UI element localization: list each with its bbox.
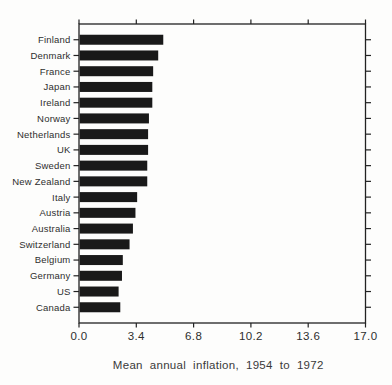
category-label-japan: Japan — [44, 81, 71, 92]
bar-austria — [80, 208, 136, 218]
bar-us — [80, 287, 119, 297]
category-label-ireland: Ireland — [40, 97, 70, 108]
bar-canada — [80, 302, 121, 312]
category-label-austria: Austria — [40, 207, 71, 218]
category-label-canada: Canada — [36, 302, 71, 313]
x-tick-label-0.0: 0.0 — [70, 330, 87, 342]
bar-norway — [80, 113, 149, 123]
bar-germany — [80, 271, 122, 281]
bar-japan — [80, 82, 153, 92]
x-tick-label-3.4: 3.4 — [128, 330, 145, 342]
category-label-france: France — [40, 66, 71, 77]
bar-france — [80, 66, 153, 76]
inflation-bar-chart-figure: 0.03.46.810.213.617.0FinlandDenmarkFranc… — [0, 0, 392, 385]
bar-uk — [80, 145, 148, 155]
bar-new-zealand — [80, 176, 148, 186]
bar-belgium — [80, 255, 123, 265]
category-label-switzerland: Switzerland — [19, 239, 70, 250]
bar-finland — [80, 35, 164, 45]
x-tick-label-17.0: 17.0 — [354, 330, 378, 342]
category-label-italy: Italy — [52, 192, 70, 203]
x-axis-title: Mean annual inflation, 1954 to 1972 — [113, 359, 324, 371]
bar-switzerland — [80, 239, 130, 249]
bar-denmark — [80, 50, 159, 60]
category-label-belgium: Belgium — [35, 254, 71, 265]
category-label-norway: Norway — [37, 113, 70, 124]
bar-ireland — [80, 98, 153, 108]
bar-australia — [80, 224, 133, 234]
category-label-australia: Australia — [32, 223, 71, 234]
x-tick-label-10.2: 10.2 — [239, 330, 263, 342]
bar-italy — [80, 192, 137, 202]
bar-sweden — [80, 161, 148, 171]
category-label-netherlands: Netherlands — [17, 129, 70, 140]
category-label-finland: Finland — [38, 34, 71, 45]
category-label-sweden: Sweden — [35, 160, 71, 171]
category-label-new-zealand: New Zealand — [12, 176, 70, 187]
x-tick-label-13.6: 13.6 — [296, 330, 320, 342]
category-label-germany: Germany — [30, 270, 71, 281]
x-tick-label-6.8: 6.8 — [185, 330, 202, 342]
inflation-bar-chart: 0.03.46.810.213.617.0FinlandDenmarkFranc… — [0, 0, 392, 385]
category-label-us: US — [57, 286, 71, 297]
category-label-denmark: Denmark — [31, 50, 71, 61]
bar-netherlands — [80, 129, 148, 139]
category-label-uk: UK — [57, 144, 71, 155]
